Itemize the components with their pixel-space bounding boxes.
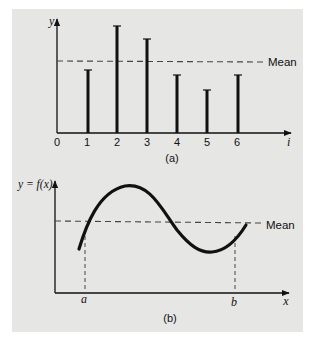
a-label: a [81, 292, 87, 306]
tick-label-4: 4 [174, 136, 180, 148]
b-label: b [231, 295, 237, 309]
tick-label-5: 5 [204, 136, 210, 148]
origin-label-a: 0 [54, 136, 60, 148]
tick-label-3: 3 [144, 136, 150, 148]
bar-1 [84, 70, 92, 133]
bar-3 [143, 39, 151, 133]
x-axis-label-b: x [282, 294, 289, 308]
mean-line-a [57, 61, 264, 62]
y-axis-label-b: y = f(x) [17, 178, 53, 191]
caption-a: (a) [165, 152, 178, 164]
caption-b: (b) [163, 312, 176, 324]
tick-label-2: 2 [114, 136, 120, 148]
chart-b: y = f(x) Mean a b x (b) [17, 178, 295, 324]
bar-4 [173, 75, 181, 133]
chart-a: y i Mean 0 1 2 3 4 5 6 (a) [48, 14, 297, 164]
mean-line-b [55, 221, 262, 223]
bar-6 [234, 75, 242, 133]
bar-2 [113, 26, 121, 133]
bar-5 [203, 90, 211, 133]
mean-label-b: Mean [266, 219, 295, 231]
tick-label-6: 6 [234, 136, 240, 148]
y-axis-label-a: y [48, 14, 55, 28]
tick-label-1: 1 [84, 136, 90, 148]
x-axis-label-a: i [287, 135, 290, 149]
figure-svg: y i Mean 0 1 2 3 4 5 6 (a) y = f(x) Mean… [0, 0, 315, 346]
mean-label-a: Mean [268, 56, 297, 68]
function-curve [79, 186, 246, 252]
